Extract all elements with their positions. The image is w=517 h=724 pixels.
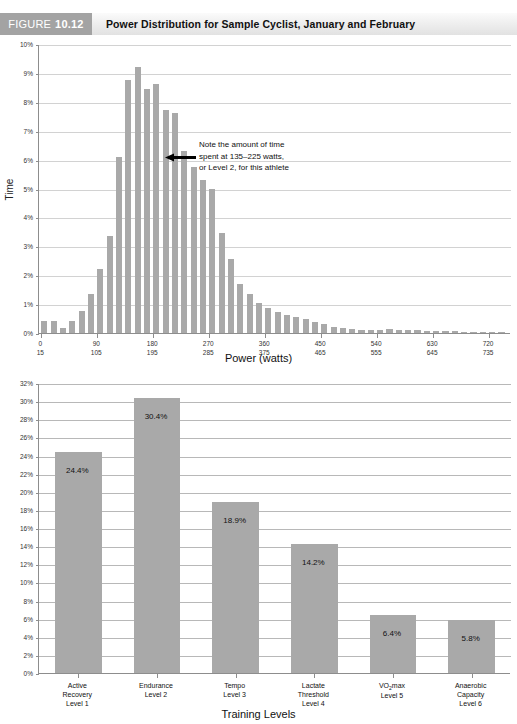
chart1-gridline bbox=[39, 190, 511, 191]
chart1-histogram-bar bbox=[69, 321, 75, 333]
chart2-y-tick bbox=[36, 493, 39, 494]
chart2-bar-value-label: 6.4% bbox=[369, 629, 415, 638]
chart1-x-tick-label-upper: 0 bbox=[20, 340, 60, 347]
chart2-y-tick-label: 32% bbox=[2, 380, 33, 387]
chart1-y-tick-label: 7% bbox=[2, 128, 33, 135]
chart2-y-tick bbox=[36, 565, 39, 566]
chart2-y-tick-label: 22% bbox=[2, 471, 33, 478]
chart1-histogram-bar bbox=[461, 332, 467, 333]
chart1-x-tick bbox=[209, 334, 210, 338]
chart2-bar-value-label: 30.4% bbox=[133, 412, 179, 421]
figure-header: FIGURE 10.12 Power Distribution for Samp… bbox=[0, 13, 517, 35]
chart2-x-tick bbox=[78, 674, 79, 678]
training-levels-chart: Time Training Levels 0%2%4%6%8%10%12%14%… bbox=[0, 378, 517, 724]
chart1-annotation: Note the amount of time spent at 135–225… bbox=[199, 139, 289, 174]
chart1-histogram-bar bbox=[405, 330, 411, 333]
chart1-x-tick bbox=[97, 334, 98, 338]
chart2-gridline bbox=[39, 529, 511, 530]
power-distribution-chart: Time Note the amount of time spent at 13… bbox=[0, 40, 517, 370]
chart1-y-tick bbox=[36, 103, 39, 104]
chart2-bar-value-label: 18.9% bbox=[211, 516, 257, 525]
chart1-histogram-bar bbox=[284, 315, 290, 333]
chart1-x-tick-label-lower: 735 bbox=[468, 349, 508, 356]
chart1-histogram-bar bbox=[247, 294, 253, 333]
chart1-y-tick bbox=[36, 276, 39, 277]
chart1-histogram-bar bbox=[312, 322, 318, 333]
chart2-category-label: AnaerobicCapacityLevel 6 bbox=[431, 681, 510, 708]
chart1-y-tick bbox=[36, 218, 39, 219]
chart1-histogram-bar bbox=[433, 331, 439, 333]
chart1-y-tick-label: 2% bbox=[2, 272, 33, 279]
chart2-y-tick-label: 0% bbox=[2, 670, 33, 677]
chart1-x-tick bbox=[489, 334, 490, 338]
chart1-x-tick bbox=[153, 334, 154, 338]
chart1-x-tick bbox=[41, 334, 42, 338]
chart2-y-tick-label: 8% bbox=[2, 598, 33, 605]
chart1-plot-area bbox=[38, 45, 510, 334]
chart2-y-tick bbox=[36, 547, 39, 548]
chart1-y-tick bbox=[36, 161, 39, 162]
annotation-line-3: or Level 2, for this athlete bbox=[199, 163, 289, 172]
chart2-category-label: LactateThresholdLevel 4 bbox=[274, 681, 353, 708]
chart1-histogram-bar bbox=[265, 308, 271, 333]
chart2-y-tick-label: 2% bbox=[2, 652, 33, 659]
chart1-histogram-bar bbox=[442, 331, 448, 333]
chart2-gridline bbox=[39, 475, 511, 476]
chart1-gridline bbox=[39, 132, 511, 133]
chart2-y-tick bbox=[36, 511, 39, 512]
chart1-y-tick bbox=[36, 190, 39, 191]
chart1-y-tick bbox=[36, 334, 39, 335]
chart2-category-bar bbox=[212, 502, 258, 673]
chart2-gridline bbox=[39, 493, 511, 494]
chart2-gridline bbox=[39, 638, 511, 639]
chart1-histogram-bar bbox=[163, 110, 169, 333]
chart1-histogram-bar bbox=[41, 321, 47, 333]
chart2-y-tick-label: 30% bbox=[2, 398, 33, 405]
chart2-y-tick bbox=[36, 656, 39, 657]
chart2-y-tick bbox=[36, 384, 39, 385]
chart2-gridline bbox=[39, 420, 511, 421]
chart1-y-tick-label: 10% bbox=[2, 41, 33, 48]
chart1-y-tick-label: 0% bbox=[2, 330, 33, 337]
chart2-category-bar bbox=[55, 452, 101, 673]
chart1-y-tick bbox=[36, 132, 39, 133]
chart2-y-tick-label: 4% bbox=[2, 634, 33, 641]
chart1-histogram-bar bbox=[349, 329, 355, 333]
chart1-y-tick bbox=[36, 247, 39, 248]
annotation-line-2: spent at 135–225 watts, bbox=[199, 152, 284, 161]
chart2-gridline bbox=[39, 402, 511, 403]
chart1-y-tick bbox=[36, 45, 39, 46]
chart2-y-tick bbox=[36, 620, 39, 621]
chart1-histogram-bar bbox=[489, 332, 495, 333]
chart2-category-label: VO2maxLevel 5 bbox=[353, 681, 432, 700]
chart1-histogram-bar bbox=[125, 80, 131, 333]
chart1-histogram-bar bbox=[396, 330, 402, 333]
chart2-category-bar bbox=[370, 615, 416, 673]
chart2-y-tick-label: 20% bbox=[2, 489, 33, 496]
chart1-x-tick-label-lower: 465 bbox=[300, 349, 340, 356]
chart1-histogram-bar bbox=[51, 321, 57, 333]
chart1-histogram-bar bbox=[144, 89, 150, 333]
chart1-gridline bbox=[39, 45, 511, 46]
chart1-histogram-bar bbox=[293, 317, 299, 333]
chart1-histogram-bar bbox=[153, 84, 159, 333]
chart2-category-label: EnduranceLevel 2 bbox=[117, 681, 196, 699]
chart2-bar-value-label: 24.4% bbox=[54, 466, 100, 475]
chart1-histogram-bar bbox=[228, 259, 234, 333]
chart1-x-tick-label-upper: 720 bbox=[468, 340, 508, 347]
chart2-x-tick bbox=[314, 674, 315, 678]
chart2-gridline bbox=[39, 457, 511, 458]
chart2-bar-value-label: 14.2% bbox=[290, 558, 336, 567]
chart2-gridline bbox=[39, 511, 511, 512]
chart1-histogram-bar bbox=[219, 233, 225, 333]
chart2-y-tick bbox=[36, 402, 39, 403]
chart1-histogram-bar bbox=[172, 113, 178, 333]
chart1-gridline bbox=[39, 74, 511, 75]
chart1-histogram-bar bbox=[470, 332, 476, 333]
chart2-x-tick bbox=[236, 674, 237, 678]
chart1-y-tick-label: 9% bbox=[2, 70, 33, 77]
chart2-category-label: ActiveRecoveryLevel 1 bbox=[38, 681, 117, 708]
chart2-y-tick-label: 10% bbox=[2, 579, 33, 586]
chart1-y-axis-title: Time bbox=[2, 188, 16, 228]
chart2-gridline bbox=[39, 583, 511, 584]
